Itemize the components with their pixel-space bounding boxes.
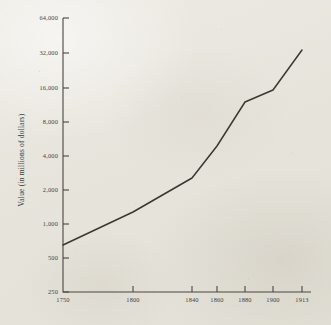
y-axis-title: Value (in millions of dollars) <box>17 113 26 206</box>
x-tick-label: 1750 <box>56 296 69 303</box>
data-series-line <box>63 50 302 245</box>
y-tick-label: 500 <box>48 254 58 261</box>
y-tick-label: 16,000 <box>40 84 58 91</box>
x-axis-ticks <box>133 286 302 292</box>
y-tick-label: 32,000 <box>40 49 58 56</box>
y-axis-ticks <box>63 18 69 292</box>
y-tick-label: 64,000 <box>40 14 58 21</box>
y-tick-label: 250 <box>48 288 58 295</box>
chart-figure: 2505001,0002,0004,0008,00016,00032,00064… <box>0 0 331 325</box>
x-tick-label: 1840 <box>185 296 198 303</box>
y-tick-label: 1,000 <box>43 220 58 227</box>
x-tick-label: 1900 <box>266 296 279 303</box>
y-tick-label: 2,000 <box>43 186 58 193</box>
x-tick-label: 1800 <box>126 296 139 303</box>
y-axis-tick-labels: 2505001,0002,0004,0008,00016,00032,00064… <box>40 14 58 295</box>
x-tick-label: 1913 <box>295 296 308 303</box>
x-tick-label: 1860 <box>210 296 223 303</box>
x-tick-label: 1880 <box>238 296 251 303</box>
line-chart: 2505001,0002,0004,0008,00016,00032,00064… <box>0 0 331 325</box>
y-tick-label: 4,000 <box>43 152 58 159</box>
x-axis-tick-labels: 1750180018401860188019001913 <box>56 296 308 303</box>
y-tick-label: 8,000 <box>43 118 58 125</box>
axis-spine <box>63 18 311 292</box>
